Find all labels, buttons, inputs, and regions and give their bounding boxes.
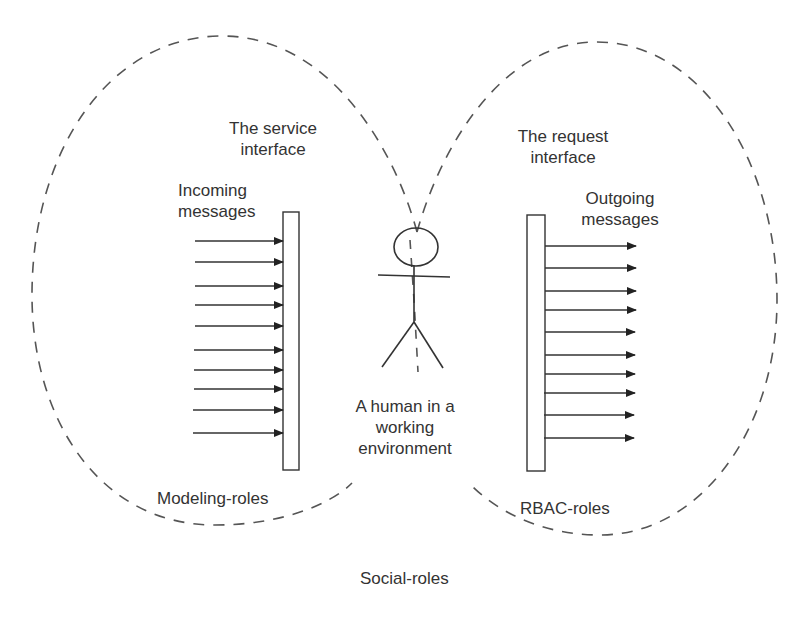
stick-figure-human-icon bbox=[378, 228, 450, 368]
social-roles-label: Social-roles bbox=[360, 568, 449, 589]
human-label-line2: working bbox=[340, 417, 470, 438]
incoming-messages-label-line2: messages bbox=[178, 201, 255, 222]
incoming-messages-label: Incoming messages bbox=[178, 180, 255, 222]
request-interface-label-line2: interface bbox=[507, 147, 619, 168]
outgoing-messages-arrows bbox=[544, 246, 636, 438]
service-interface-label: The service interface bbox=[214, 118, 332, 160]
service-interface-label-line2: interface bbox=[214, 139, 332, 160]
service-interface-label-line1: The service bbox=[214, 118, 332, 139]
request-interface-label-line1: The request bbox=[507, 126, 619, 147]
rbac-roles-boundary bbox=[417, 42, 777, 535]
incoming-messages-label-line1: Incoming bbox=[178, 180, 255, 201]
human-label-line1: A human in a bbox=[340, 396, 470, 417]
request-interface-bar bbox=[527, 215, 545, 471]
incoming-messages-arrows bbox=[193, 241, 283, 433]
outgoing-messages-label-line2: messages bbox=[570, 209, 670, 230]
service-interface-bar bbox=[283, 212, 299, 470]
rbac-roles-label: RBAC-roles bbox=[520, 498, 610, 519]
outgoing-messages-label: Outgoing messages bbox=[570, 188, 670, 230]
outgoing-messages-label-line1: Outgoing bbox=[570, 188, 670, 209]
modeling-roles-label: Modeling-roles bbox=[157, 488, 269, 509]
diagram-canvas bbox=[0, 0, 811, 620]
human-label: A human in a working environment bbox=[340, 396, 470, 459]
human-label-line3: environment bbox=[340, 438, 470, 459]
request-interface-label: The request interface bbox=[507, 126, 619, 168]
